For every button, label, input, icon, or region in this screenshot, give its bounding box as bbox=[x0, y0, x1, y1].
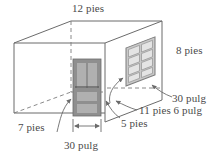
label-seven-pies: 7 pies bbox=[18, 122, 45, 133]
label-window-width: 30 pulg bbox=[172, 93, 206, 104]
leader-right-depth bbox=[116, 101, 137, 110]
door bbox=[73, 59, 101, 116]
label-door-width: 30 pulg bbox=[64, 140, 98, 151]
leader-seven-pies bbox=[57, 99, 71, 132]
building-diagram bbox=[0, 0, 221, 160]
dim-arrow-right bbox=[95, 124, 100, 129]
edge-top-left-slant bbox=[14, 21, 71, 43]
label-top-width: 12 pies bbox=[72, 3, 104, 14]
window bbox=[126, 37, 155, 86]
door-panel-middle bbox=[77, 92, 97, 101]
figure-container: 12 pies 8 pies 30 pulg 11 pies 6 pulg 5 … bbox=[0, 0, 221, 160]
leader-five-pies bbox=[106, 101, 120, 118]
dim-arrow-left bbox=[74, 124, 79, 129]
label-right-height: 8 pies bbox=[176, 45, 203, 56]
door-panel-upper-left bbox=[77, 63, 86, 88]
door-panel-upper-right bbox=[88, 63, 97, 88]
door-panel-lower bbox=[77, 104, 97, 113]
door-width-dimension bbox=[73, 119, 101, 132]
label-five-pies: 5 pies bbox=[121, 118, 148, 129]
label-right-depth: 11 pies 6 pulg bbox=[139, 105, 202, 116]
hidden-edge-back-bottom-diagonal bbox=[14, 92, 71, 113]
leader-window-left bbox=[110, 78, 123, 103]
